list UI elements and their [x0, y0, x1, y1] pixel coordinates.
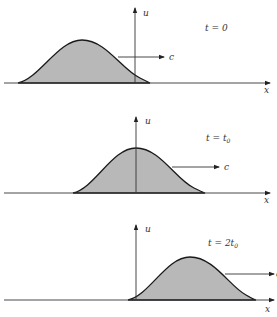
x-label: x [264, 85, 269, 95]
wave-pulse [18, 40, 150, 83]
x-label: x [264, 195, 269, 205]
x-label: x [265, 304, 270, 314]
c-label: c [169, 52, 174, 62]
time-label: t = t0 [206, 133, 231, 144]
panel-t0: u c x t = 0 [4, 8, 270, 95]
wave-pulse [73, 148, 205, 193]
u-label: u [143, 8, 149, 18]
time-label: t = 0 [205, 23, 228, 33]
u-label: u [145, 224, 151, 234]
c-label: c [276, 269, 277, 279]
c-label: c [224, 162, 229, 172]
panel-t1: u c x t = t0 [4, 116, 270, 205]
wave-pulse [128, 257, 256, 300]
u-label: u [145, 116, 151, 126]
time-label: t = 2t0 [208, 238, 238, 249]
wave-figure: u c x t = 0 u c x t = t0 u c x t = 2t0 [0, 0, 277, 317]
panel-t2: u c x t = 2t0 [4, 224, 277, 314]
